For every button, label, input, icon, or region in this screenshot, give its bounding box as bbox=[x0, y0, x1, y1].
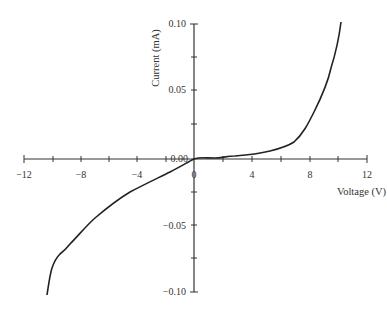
x-tick-label: −12 bbox=[16, 169, 32, 180]
y-tick-label: 0.05 bbox=[169, 84, 187, 95]
y-tick-label: −0.10 bbox=[163, 286, 186, 297]
x-tick-label: 8 bbox=[308, 169, 313, 180]
x-tick-label: 12 bbox=[362, 169, 372, 180]
x-tick-label: 4 bbox=[250, 169, 255, 180]
y-axis-label: Current (mA) bbox=[150, 29, 162, 87]
iv-chart: −12 −8 −4 0 4 8 12 0.10 0.05 0.00 −0.05 … bbox=[0, 0, 387, 311]
y-tick-label: −0.05 bbox=[163, 220, 186, 231]
x-tick-label: −4 bbox=[132, 169, 143, 180]
x-tick-label: −8 bbox=[76, 169, 87, 180]
y-tick-label: 0.00 bbox=[171, 153, 189, 164]
x-tick-label: 0 bbox=[192, 169, 197, 180]
x-axis-label: Voltage (V) bbox=[337, 186, 387, 198]
y-tick-label: 0.10 bbox=[169, 18, 187, 29]
